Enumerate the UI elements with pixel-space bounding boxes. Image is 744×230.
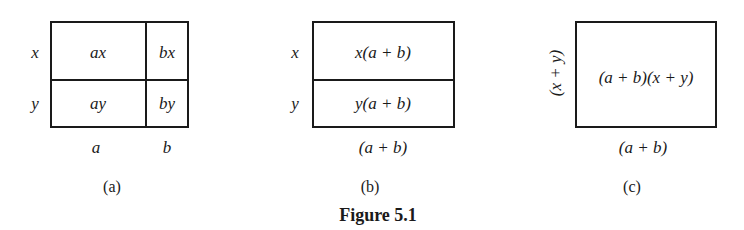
panel-a-col-label-a: a [92,139,101,156]
panel-a-col-label-b: b [163,139,172,156]
panel-b-cell-top: x(a + b) [355,44,411,61]
panel-a-cell-by: by [159,95,175,112]
panel-a-cell-bx: bx [159,44,175,61]
panel-a-horizontal-divider [50,79,189,81]
panel-a-cell-ay: ay [90,95,106,112]
panel-c-side-label: (x + y) [547,50,564,96]
panel-b-row-label-y: y [291,95,299,112]
figure-5-1: x y ax bx ay by a b (a) x y x(a + b) y(a… [0,0,744,230]
panel-a-vertical-divider [145,21,147,128]
panel-c-cell: (a + b)(x + y) [599,69,694,86]
panel-b-horizontal-divider [312,79,455,81]
panel-a-row-label-x: x [31,44,39,61]
panel-c-col-label: (a + b) [619,139,667,156]
panel-a-sublabel: (a) [103,179,121,195]
panel-b-sublabel: (b) [361,179,380,195]
panel-a-cell-ax: ax [90,44,106,61]
panel-b-cell-bottom: y(a + b) [355,95,411,112]
figure-caption: Figure 5.1 [339,206,417,224]
panel-b-row-label-x: x [291,44,299,61]
panel-b-col-label: (a + b) [359,139,407,156]
panel-a-row-label-y: y [31,95,39,112]
panel-c-sublabel: (c) [623,179,641,195]
